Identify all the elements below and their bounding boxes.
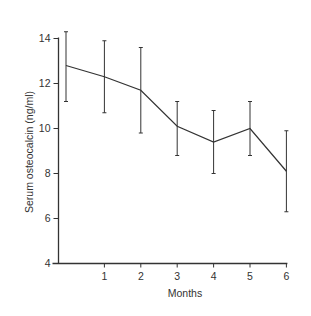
y-axis-title: Serum osteocalcin (ng/ml) [23,91,35,213]
error-bars [64,32,288,212]
x-tick-label: 3 [174,270,180,282]
y-tick-label: 4 [45,257,51,269]
y-tick-label: 6 [45,212,51,224]
x-tick-label: 1 [101,270,107,282]
x-axis-title: Months [168,287,202,299]
x-tick-label: 6 [283,270,289,282]
y-tick-label: 10 [39,122,51,134]
x-tick-label: 5 [247,270,253,282]
x-tick-label: 4 [211,270,217,282]
axes: 468101214123456 [39,32,290,281]
x-tick-label: 2 [138,270,144,282]
y-tick-label: 12 [39,77,51,89]
y-tick-label: 14 [39,32,51,44]
osteocalcin-chart: 468101214123456 Months Serum osteocalcin… [0,0,311,316]
y-tick-label: 8 [45,167,51,179]
